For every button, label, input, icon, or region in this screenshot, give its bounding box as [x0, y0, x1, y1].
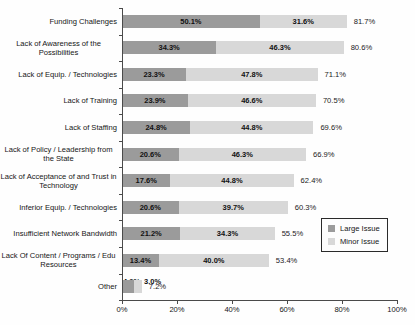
- total-value-label: 55.5%: [282, 227, 304, 240]
- category-label: Lack of Policy / Leadership from the Sta…: [0, 145, 117, 163]
- segment-value-label: 50.1%: [180, 17, 201, 26]
- bar-segment-minor-issue: 46.3%: [179, 148, 306, 161]
- segment-value-label: 21.2%: [141, 229, 162, 238]
- segment-value-label: 46.6%: [241, 96, 262, 105]
- bar-track: 50.1%31.6%81.7%: [122, 8, 397, 35]
- total-value-label: 60.3%: [295, 201, 317, 214]
- bar-segment-large-issue: 23.9%: [122, 94, 188, 107]
- y-axis: [122, 8, 123, 301]
- total-value-label: 70.5%: [323, 94, 345, 107]
- bar-segment-large-issue: 20.6%: [122, 148, 179, 161]
- y-axis-tick: [119, 194, 122, 195]
- category-cell: Lack Of Content / Programs / Edu Resourc…: [0, 247, 122, 274]
- segment-value-label: 34.3%: [217, 229, 238, 238]
- bar-segment-large-issue: 50.1%: [122, 15, 260, 28]
- bar-row: Inferior Equip. / Technologies20.6%39.7%…: [0, 194, 397, 221]
- category-label: Other: [98, 282, 117, 291]
- segment-value-label: 44.8%: [221, 176, 242, 185]
- segment-value-label: 20.6%: [140, 150, 161, 159]
- bar-track: 24.8%44.8%69.6%: [122, 114, 397, 141]
- bar-track: 4.2%3.0%7.2%: [122, 273, 397, 300]
- bar-row: Funding Challenges50.1%31.6%81.7%: [0, 8, 397, 35]
- bar-row: Lack of Awareness of the Possibilities34…: [0, 35, 397, 62]
- bar-segment-large-issue: [122, 280, 134, 293]
- category-cell: Lack of Acceptance of and Trust in Techn…: [0, 167, 122, 194]
- legend-marker-minor-issue: [328, 238, 335, 245]
- y-axis-tick: [119, 247, 122, 248]
- legend: Large Issue Minor Issue: [321, 218, 388, 252]
- bar-row: Lack of Acceptance of and Trust in Techn…: [0, 167, 397, 194]
- legend-marker-large-issue: [328, 225, 335, 232]
- bar-segment-large-issue: 20.6%: [122, 201, 179, 214]
- segment-value-label: 17.6%: [136, 176, 157, 185]
- category-label: Inferior Equip. / Technologies: [19, 203, 117, 212]
- bar-row: Other4.2%3.0%7.2%: [0, 273, 397, 300]
- category-cell: Lack of Training: [0, 88, 122, 115]
- y-axis-tick: [119, 167, 122, 168]
- total-value-label: 66.9%: [313, 148, 335, 161]
- segment-value-label: 20.6%: [140, 203, 161, 212]
- y-axis-tick: [119, 8, 122, 9]
- bar-track: 23.3%47.8%71.1%: [122, 61, 397, 88]
- category-cell: Other: [0, 273, 122, 300]
- bar-segment-large-issue: 17.6%: [122, 174, 170, 187]
- category-label: Lack of Awareness of the Possibilities: [0, 39, 117, 57]
- x-axis-tick-label: 20%: [169, 305, 184, 314]
- bar-row: Lack of Equip. / Technologies23.3%47.8%7…: [0, 61, 397, 88]
- y-axis-tick: [119, 61, 122, 62]
- total-value-label: 69.6%: [320, 121, 342, 134]
- category-cell: Funding Challenges: [0, 8, 122, 35]
- segment-value-label: 31.6%: [293, 17, 314, 26]
- legend-item-large-issue: Large Issue: [328, 224, 380, 233]
- y-axis-tick: [119, 114, 122, 115]
- bar-segment-large-issue: 21.2%: [122, 227, 180, 240]
- y-axis-tick: [119, 220, 122, 221]
- category-cell: Lack of Staffing: [0, 114, 122, 141]
- bar-row: Lack of Staffing24.8%44.8%69.6%: [0, 114, 397, 141]
- x-axis-tick: [122, 300, 123, 304]
- bar-segment-minor-issue: 44.8%: [190, 121, 313, 134]
- category-cell: Lack of Policy / Leadership from the Sta…: [0, 141, 122, 168]
- segment-value-label: 39.7%: [223, 203, 244, 212]
- x-axis-tick-label: 40%: [224, 305, 239, 314]
- bar-segment-large-issue: 13.4%: [122, 254, 159, 267]
- bar-row: Lack of Policy / Leadership from the Sta…: [0, 141, 397, 168]
- total-value-label: 81.7%: [354, 15, 376, 28]
- total-value-label: 62.4%: [301, 174, 323, 187]
- category-cell: Inferior Equip. / Technologies: [0, 194, 122, 221]
- legend-label-minor-issue: Minor Issue: [340, 237, 379, 246]
- x-axis-tick: [177, 300, 178, 304]
- bar-track: 17.6%44.8%62.4%: [122, 167, 397, 194]
- total-value-label: 53.4%: [276, 254, 298, 267]
- bar-segment-minor-issue: 44.8%: [170, 174, 293, 187]
- bar-row: Lack of Training23.9%46.6%70.5%: [0, 88, 397, 115]
- category-cell: Lack of Awareness of the Possibilities: [0, 35, 122, 62]
- bar-segment-large-issue: 34.3%: [122, 41, 216, 54]
- segment-value-label: 24.8%: [145, 123, 166, 132]
- y-axis-tick: [119, 35, 122, 36]
- y-axis-tick: [119, 274, 122, 275]
- y-axis-tick: [119, 141, 122, 142]
- bar-segment-minor-issue: 39.7%: [179, 201, 288, 214]
- y-axis-tick: [119, 88, 122, 89]
- x-axis-tick: [287, 300, 288, 304]
- bar-segment-large-issue: 23.3%: [122, 68, 186, 81]
- segment-value-label: 44.8%: [241, 123, 262, 132]
- bar-segment-minor-issue: [134, 280, 142, 293]
- x-axis-tick: [342, 300, 343, 304]
- category-cell: Insufficient Network Bandwidth: [0, 220, 122, 247]
- category-cell: Lack of Equip. / Technologies: [0, 61, 122, 88]
- x-axis: [122, 300, 398, 301]
- bar-segment-minor-issue: 31.6%: [260, 15, 347, 28]
- bar-segment-minor-issue: 46.3%: [216, 41, 343, 54]
- segment-value-label: 23.9%: [144, 96, 165, 105]
- total-value-label: 80.6%: [351, 41, 373, 54]
- segment-value-label: 23.3%: [143, 70, 164, 79]
- x-axis-tick-label: 0%: [117, 305, 128, 314]
- bar-segment-minor-issue: 47.8%: [186, 68, 317, 81]
- segment-value-label: 34.3%: [159, 43, 180, 52]
- legend-item-minor-issue: Minor Issue: [328, 237, 380, 246]
- stacked-bar-chart: Funding Challenges50.1%31.6%81.7%Lack of…: [0, 0, 415, 325]
- bar-segment-minor-issue: 46.6%: [188, 94, 316, 107]
- segment-value-label: 40.0%: [203, 256, 224, 265]
